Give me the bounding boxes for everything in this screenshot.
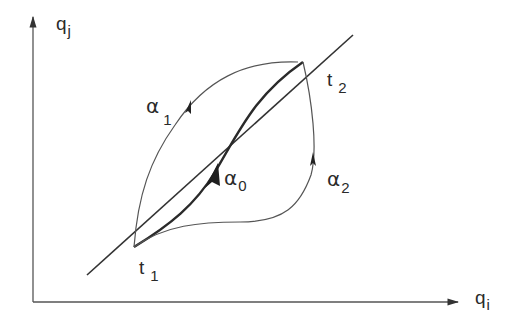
diagram-canvas xyxy=(0,0,523,325)
y-axis-label: qj xyxy=(56,14,70,33)
t2-label-base: t xyxy=(327,69,332,90)
alpha1-label-sub: 1 xyxy=(163,111,171,128)
t1-label: t1 xyxy=(139,258,153,277)
alpha2-label-sub: 2 xyxy=(341,179,349,196)
t2-label: t2 xyxy=(327,70,341,89)
t1-label-sub: 1 xyxy=(150,267,158,284)
x-axis-label-base: q xyxy=(475,287,486,308)
alpha0-label-base: α xyxy=(224,166,237,190)
x-axis-label: qi xyxy=(475,288,489,307)
alpha2-label: α2 xyxy=(327,169,349,189)
y-axis-label-sub: j xyxy=(68,22,71,39)
t1-label-base: t xyxy=(139,257,144,278)
alpha0-label: α0 xyxy=(224,168,246,188)
alpha1-label: α1 xyxy=(146,96,168,116)
y-axis-label-base: q xyxy=(56,13,67,34)
x-axis-label-sub: i xyxy=(487,296,490,313)
alpha2-label-base: α xyxy=(327,167,340,191)
arrow-alpha1-icon xyxy=(185,100,191,114)
path-alpha1 xyxy=(134,62,298,247)
t2-label-sub: 2 xyxy=(338,79,346,96)
alpha1-label-base: α xyxy=(146,94,159,118)
alpha0-label-sub: 0 xyxy=(238,177,246,194)
path-alpha0 xyxy=(134,62,303,247)
